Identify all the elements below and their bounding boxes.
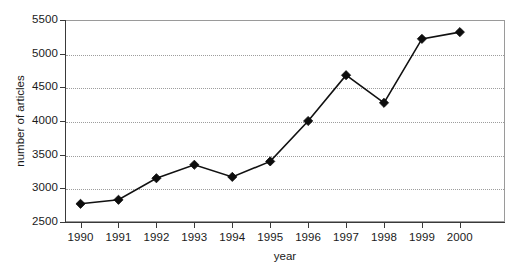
- x-tick-mark: [384, 222, 385, 228]
- x-tick-label: 2000: [432, 231, 488, 243]
- x-tick-mark: [308, 222, 309, 228]
- x-tick-mark: [81, 222, 82, 228]
- gridline: [66, 55, 504, 56]
- x-tick-mark: [118, 222, 119, 228]
- y-tick-label: 3500: [4, 148, 58, 160]
- x-tick-mark: [422, 222, 423, 228]
- y-axis-label: number of articles: [14, 20, 30, 222]
- gridline: [66, 156, 504, 157]
- x-tick-mark: [156, 222, 157, 228]
- gridline: [66, 189, 504, 190]
- y-tick-mark: [60, 20, 65, 21]
- x-tick-mark: [346, 222, 347, 228]
- x-tick-mark: [270, 222, 271, 228]
- plot-area: [65, 20, 505, 222]
- y-tick-label: 2500: [4, 215, 58, 227]
- y-tick-label: 4500: [4, 80, 58, 92]
- x-axis-line: [65, 222, 505, 223]
- line-chart: 2500300035004000450050005500 19901991199…: [0, 0, 524, 272]
- y-tick-label: 5000: [4, 47, 58, 59]
- y-tick-mark: [60, 87, 65, 88]
- y-tick-label: 3000: [4, 181, 58, 193]
- x-axis-label: year: [65, 250, 505, 262]
- y-tick-mark: [60, 54, 65, 55]
- gridline: [66, 122, 504, 123]
- y-tick-label: 5500: [4, 13, 58, 25]
- gridline: [66, 88, 504, 89]
- y-tick-mark: [60, 121, 65, 122]
- y-tick-mark: [60, 188, 65, 189]
- x-tick-mark: [232, 222, 233, 228]
- y-tick-mark: [60, 155, 65, 156]
- y-axis-line: [65, 20, 66, 222]
- x-tick-mark: [194, 222, 195, 228]
- x-tick-mark: [460, 222, 461, 228]
- y-tick-label: 4000: [4, 114, 58, 126]
